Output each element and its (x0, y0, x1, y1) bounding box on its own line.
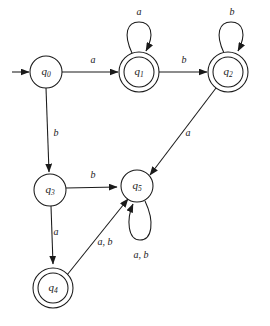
edge-line-q2-q5 (150, 88, 216, 175)
transition-q3-q4: a (51, 206, 59, 264)
transition-q3-q5: b (66, 169, 117, 188)
state-node-q4[interactable]: q4 (33, 268, 73, 308)
edge-label-q3-q4: a (54, 226, 59, 237)
state-subscript-q3: 3 (50, 188, 55, 197)
transition-q0-q3: b (46, 88, 59, 172)
state-subscript-q0: 0 (47, 70, 51, 79)
edge-label-q0-q3: b (54, 127, 59, 138)
state-node-q1[interactable]: q1 (119, 52, 159, 92)
state-subscript-q4: 4 (54, 286, 58, 295)
self-loop-path-q1 (127, 22, 151, 53)
self-loop-path-q2 (219, 22, 243, 53)
transition-q0-q1: a (62, 54, 118, 72)
transition-q1-q2: b (159, 54, 207, 72)
edge-label-q5-self-loop: a, b (134, 249, 149, 260)
state-node-q0[interactable]: q0 (30, 56, 62, 88)
edge-label-q0-q1: a (91, 54, 96, 65)
state-node-q2[interactable]: q2 (208, 52, 248, 92)
state-node-q3[interactable]: q3 (34, 174, 66, 206)
edge-line-q0-q3 (46, 88, 49, 172)
self-loop-path-q5 (129, 201, 151, 240)
automaton-diagram: a b b a b a a, b (0, 0, 270, 326)
edge-label-q3-q5: b (91, 169, 96, 180)
edge-label-q2-q5: a (186, 127, 191, 138)
transition-q2-q5: a (150, 88, 216, 175)
transition-q4-q5: a, b (67, 199, 128, 275)
state-subscript-q2: 2 (229, 70, 233, 79)
state-subscript-q5: 5 (138, 184, 142, 193)
edge-label-q1-q2: b (182, 54, 187, 65)
state-subscript-q1: 1 (140, 70, 144, 79)
edge-label-q1-self-loop: a (137, 6, 142, 17)
transition-q1-self-loop: a (127, 6, 151, 53)
state-diagram-canvas: a b b a b a a, b (0, 0, 270, 326)
transition-q2-self-loop: b (219, 6, 243, 53)
edge-label-q4-q5: a, b (98, 236, 113, 247)
edge-line-q3-q5 (66, 187, 117, 188)
state-node-q5[interactable]: q5 (121, 170, 153, 202)
transition-q5-self-loop: a, b (129, 201, 151, 260)
edge-label-q2-self-loop: b (230, 6, 235, 17)
